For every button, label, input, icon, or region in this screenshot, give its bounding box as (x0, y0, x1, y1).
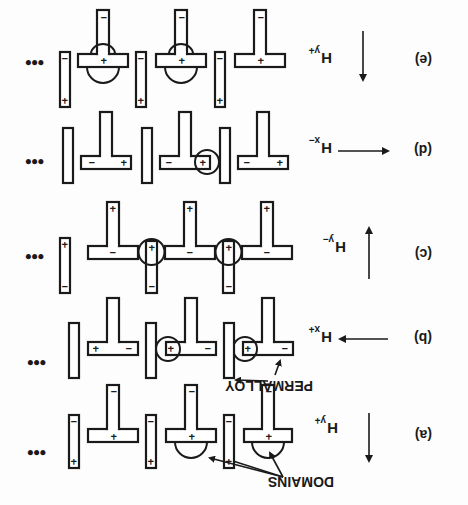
field-label-c: H y− (322, 234, 346, 256)
svg-text:+: + (264, 203, 270, 215)
svg-text:+: + (245, 343, 251, 355)
svg-text:−: − (138, 53, 144, 65)
permalloy-leader (275, 361, 280, 375)
diagram-canvas: (a) H y+ + − + − + − + − (0, 0, 468, 505)
svg-text:H: H (335, 239, 346, 256)
svg-text:+: + (179, 55, 185, 67)
ibar: + − (146, 415, 156, 468)
svg-text:−: − (264, 247, 270, 259)
ibar: + − (69, 415, 79, 468)
svg-text:+: + (148, 456, 154, 468)
svg-text:−: − (62, 281, 68, 293)
svg-text:+: + (110, 203, 116, 215)
svg-text:y−: y− (322, 234, 334, 245)
ibar: + − (60, 52, 70, 107)
tbar: − + (156, 298, 216, 361)
svg-text:−: − (110, 247, 116, 259)
row-b: (b) H x+ − + − + − + ••• PERMALLOY (27, 298, 432, 394)
tbar: + − (235, 10, 285, 67)
svg-text:+: + (226, 242, 232, 254)
ellipsis: ••• (25, 152, 44, 172)
step-label-e: (e) (415, 52, 432, 68)
svg-text:x+: x+ (308, 324, 320, 335)
svg-text:−: − (244, 157, 250, 169)
tbar: + − (160, 112, 219, 174)
field-label-b: H x+ (308, 324, 332, 346)
step-label-c: (c) (415, 246, 432, 262)
field-label-a: H y+ (314, 415, 338, 437)
svg-text:−: − (189, 386, 195, 398)
svg-text:x−: x− (308, 135, 320, 146)
svg-text:+: + (217, 95, 223, 107)
svg-text:+: + (138, 95, 144, 107)
ellipsis: ••• (27, 353, 46, 373)
step-label-b: (b) (414, 330, 432, 346)
svg-text:−: − (166, 157, 172, 169)
ibar: − + (216, 239, 242, 293)
tbar: − + (233, 298, 293, 361)
svg-text:−: − (101, 12, 107, 24)
ellipsis: ••• (27, 443, 46, 463)
tbar: + − (244, 385, 292, 458)
svg-text:+: + (149, 242, 155, 254)
ibar: + − (224, 415, 234, 468)
svg-text:−: − (258, 12, 264, 24)
field-label-e: H y+ (308, 45, 332, 67)
svg-text:H: H (321, 140, 332, 157)
ibar (69, 323, 79, 378)
svg-text:H: H (321, 329, 332, 346)
ibar: + − (215, 52, 225, 107)
svg-text:−: − (226, 416, 232, 428)
ibar (63, 128, 73, 183)
svg-text:+: + (200, 157, 206, 169)
ibar (146, 323, 156, 378)
permalloy-leader (236, 380, 268, 381)
svg-text:−: − (179, 12, 185, 24)
tbar: − + (88, 298, 138, 355)
tbar: − + (88, 202, 138, 259)
svg-text:−: − (205, 343, 211, 355)
svg-text:+: + (101, 55, 107, 67)
svg-text:+: + (168, 343, 174, 355)
svg-text:−: − (71, 416, 77, 428)
step-label-a: (a) (415, 427, 432, 443)
tbar: + − (238, 112, 288, 169)
ibar (142, 128, 152, 183)
svg-text:−: − (226, 281, 232, 293)
ellipsis: ••• (25, 247, 44, 267)
field-label-d: H x− (308, 135, 332, 157)
ibar: + − (136, 52, 146, 107)
svg-text:y+: y+ (314, 415, 326, 426)
svg-text:+: + (187, 203, 193, 215)
svg-text:−: − (62, 53, 68, 65)
svg-text:+: + (121, 157, 127, 169)
ellipsis: ••• (25, 53, 44, 73)
svg-text:+: + (93, 343, 99, 355)
step-label-d: (d) (414, 142, 432, 158)
tbar-bubble-propagation-diagram: (a) H y+ + − + − + − + − (0, 0, 468, 505)
svg-text:+: + (277, 157, 283, 169)
svg-text:+: + (258, 55, 264, 67)
svg-text:+: + (62, 95, 68, 107)
svg-text:−: − (126, 343, 132, 355)
tbar: − + (242, 202, 292, 259)
svg-text:+: + (266, 431, 272, 443)
row-c: (c) H y− − + − + − + − + (25, 202, 432, 293)
svg-text:−: − (149, 281, 155, 293)
svg-text:−: − (111, 386, 117, 398)
svg-text:y+: y+ (308, 45, 320, 56)
tbar: + − (88, 385, 138, 443)
svg-text:H: H (327, 420, 338, 437)
tbar: + − (81, 112, 131, 169)
ibar (220, 128, 230, 183)
ibar (224, 323, 234, 378)
ibar: − + (139, 239, 165, 293)
tbar: − + (165, 202, 215, 259)
svg-text:+: + (62, 239, 68, 251)
tbar: + − (156, 10, 206, 83)
row-e: (e) H y+ + − + − + − + − (25, 10, 432, 107)
row-d: (d) H x− + − + − + − ••• (25, 112, 432, 183)
tbar: + − (78, 10, 128, 83)
tbar: + − (166, 385, 216, 458)
svg-text:−: − (148, 416, 154, 428)
